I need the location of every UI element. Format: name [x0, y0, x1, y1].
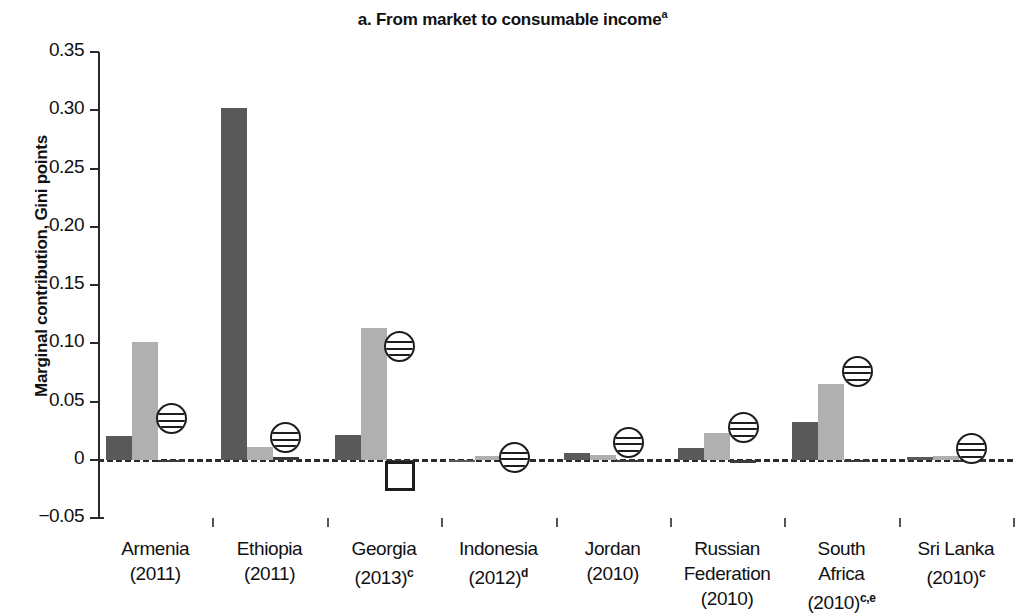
marker-stripe	[613, 437, 644, 439]
bar-group	[327, 52, 441, 518]
x-axis-separator	[212, 518, 214, 527]
bar-group	[784, 52, 898, 518]
bar-bar-light	[247, 447, 273, 460]
chart-title-superscript: a	[661, 8, 667, 20]
marker-stripe	[613, 450, 644, 452]
y-tick-label: 0.15	[22, 272, 84, 294]
bar-bar-dark	[907, 457, 933, 460]
x-axis-separator	[556, 518, 558, 527]
marker-circle-striped	[156, 403, 187, 434]
x-axis-separator	[327, 518, 329, 527]
y-tick-label: 0.10	[22, 330, 84, 352]
marker-stripe	[499, 465, 530, 467]
marker-stripe	[384, 348, 415, 350]
marker-stripe	[384, 354, 415, 356]
marker-circle-striped	[384, 331, 415, 362]
marker-circle-striped	[270, 422, 301, 453]
category-year: (2010)c	[899, 561, 1013, 590]
y-tick-label: −0.05	[22, 505, 84, 527]
bar-bar-dark	[449, 460, 475, 463]
x-axis-category-label: Armenia(2011)	[98, 536, 212, 586]
bar-bar-dark	[792, 422, 818, 459]
category-name-line2: Africa	[784, 561, 898, 586]
marker-stripe	[156, 413, 187, 415]
marker-stripe	[842, 366, 873, 368]
bar-bar-dark	[106, 436, 132, 459]
marker-stripe	[842, 379, 873, 381]
category-year-superscript: c,e	[860, 591, 875, 605]
y-tick-label: 0.35	[22, 39, 84, 61]
marker-stripe	[842, 372, 873, 374]
bar-group	[556, 52, 670, 518]
bar-bar-dark	[678, 448, 704, 460]
x-axis-separator	[670, 518, 672, 527]
chart-title: a. From market to consumable incomea	[0, 8, 1025, 30]
y-tick-label: 0	[22, 447, 84, 469]
y-tick-label: 0.20	[22, 214, 84, 236]
category-name: South	[784, 536, 898, 561]
x-axis-separator	[784, 518, 786, 527]
marker-stripe	[956, 449, 987, 451]
x-axis-category-label: Ethiopia(2011)	[212, 536, 326, 586]
marker-circle-striped	[956, 433, 987, 464]
marker-stripe	[956, 456, 987, 458]
category-year-superscript: d	[521, 566, 528, 580]
category-name: Russian	[670, 536, 784, 561]
marker-stripe	[156, 426, 187, 428]
bar-group	[670, 52, 784, 518]
bar-bar-light	[475, 456, 501, 459]
category-year: (2010)	[556, 561, 670, 586]
category-name: Armenia	[98, 536, 212, 561]
bar-bar-dark	[221, 108, 247, 460]
category-name: Ethiopia	[212, 536, 326, 561]
bar-group	[212, 52, 326, 518]
marker-stripe	[499, 458, 530, 460]
category-name: Jordan	[556, 536, 670, 561]
bar-bar-thin-dark	[273, 457, 299, 460]
marker-circle-striped	[842, 356, 873, 387]
category-name-line2: Federation	[670, 561, 784, 586]
x-axis-category-label: RussianFederation(2010)	[670, 536, 784, 611]
marker-stripe	[613, 443, 644, 445]
marker-stripe	[156, 420, 187, 422]
x-axis-category-label: Indonesia(2012)d	[441, 536, 555, 590]
x-axis-category-label: Sri Lanka(2010)c	[899, 536, 1013, 590]
y-tick-label: 0.30	[22, 97, 84, 119]
marker-circle-striped	[728, 412, 759, 443]
x-axis-separator	[899, 518, 901, 527]
bar-bar-thin-dark	[158, 460, 184, 463]
marker-stripe	[384, 341, 415, 343]
bar-bar-dark	[335, 435, 361, 459]
bar-group	[98, 52, 212, 518]
category-year: (2011)	[212, 561, 326, 586]
y-tick-label: 0.25	[22, 156, 84, 178]
category-year: (2011)	[98, 561, 212, 586]
category-name: Georgia	[327, 536, 441, 561]
bar-bar-thin-dark	[730, 460, 756, 463]
marker-stripe	[728, 422, 759, 424]
marker-stripe	[270, 432, 301, 434]
category-year-superscript: c	[407, 566, 413, 580]
bar-bar-light	[590, 455, 616, 460]
bar-bar-light	[132, 342, 158, 460]
bar-bar-thin-dark	[844, 460, 870, 463]
marker-circle-striped	[499, 442, 530, 473]
bar-bar-light	[361, 328, 387, 460]
x-axis-category-label: Georgia(2013)c	[327, 536, 441, 590]
plot-area	[98, 52, 1013, 518]
x-axis-category-label: SouthAfrica(2010)c,e	[784, 536, 898, 615]
marker-stripe	[270, 445, 301, 447]
bar-bar-dark	[564, 453, 590, 460]
marker-stripe	[728, 435, 759, 437]
marker-square-open	[385, 461, 415, 491]
bar-group	[899, 52, 1013, 518]
marker-stripe	[270, 439, 301, 441]
marker-stripe	[728, 428, 759, 430]
y-tick-label: 0.05	[22, 389, 84, 411]
category-year-superscript: c	[979, 566, 985, 580]
chart-title-text: a. From market to consumable income	[358, 10, 662, 29]
category-year: (2010)c,e	[784, 586, 898, 615]
category-name: Indonesia	[441, 536, 555, 561]
bar-bar-light	[704, 433, 730, 460]
